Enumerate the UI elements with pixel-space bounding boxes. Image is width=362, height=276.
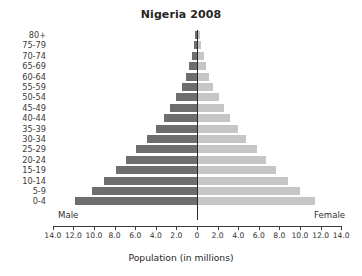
x-axis-tick <box>218 226 219 230</box>
age-group-label: 0-4 <box>0 196 46 206</box>
x-axis-tick <box>53 226 54 230</box>
x-axis-tick-label: 6.0 <box>129 231 141 241</box>
pyramid-row: 15-19 <box>0 165 362 175</box>
bar-male <box>116 166 197 174</box>
x-axis-tick-label: 0 <box>195 231 200 241</box>
bar-female <box>198 104 224 112</box>
age-group-label: 80+ <box>0 30 46 40</box>
x-axis-tick <box>115 226 116 230</box>
chart-title: Nigeria 2008 <box>0 8 362 21</box>
age-group-label: 5-9 <box>0 186 46 196</box>
pyramid-row: 75-79 <box>0 40 362 50</box>
bar-male <box>136 145 197 153</box>
x-axis-tick-label: 4.0 <box>150 231 162 241</box>
bar-male <box>147 135 197 143</box>
x-axis-tick-label: 10.0 <box>86 231 103 241</box>
population-pyramid-chart: Nigeria 2008 0-45-910-1415-1920-2425-293… <box>0 0 362 276</box>
x-axis-tick-label: 12.0 <box>312 231 329 241</box>
bar-female <box>198 145 257 153</box>
x-axis-tick <box>279 226 280 230</box>
bar-female <box>198 135 246 143</box>
x-axis-tick <box>197 226 198 230</box>
bar-male <box>176 93 197 101</box>
pyramid-row: 20-24 <box>0 155 362 165</box>
bar-female <box>198 114 230 122</box>
x-axis-tick <box>341 226 342 230</box>
x-axis-tick-label: 2.0 <box>170 231 182 241</box>
age-group-label: 20-24 <box>0 155 46 165</box>
pyramid-row: 65-69 <box>0 61 362 71</box>
pyramid-row: 70-74 <box>0 51 362 61</box>
pyramid-row: 30-34 <box>0 134 362 144</box>
pyramid-row: 45-49 <box>0 103 362 113</box>
x-axis-tick <box>176 226 177 230</box>
age-group-label: 15-19 <box>0 165 46 175</box>
pyramid-row: 80+ <box>0 30 362 40</box>
x-axis-tick <box>73 226 74 230</box>
age-group-label: 40-44 <box>0 113 46 123</box>
bar-female <box>198 93 219 101</box>
bar-male <box>164 114 197 122</box>
x-axis-tick-label: 6.0 <box>253 231 265 241</box>
male-series-label: Male <box>58 210 78 220</box>
x-axis-tick-label: 10.0 <box>292 231 309 241</box>
bar-male <box>156 125 197 133</box>
x-axis-tick <box>259 226 260 230</box>
x-axis-tick-label: 8.0 <box>273 231 285 241</box>
x-axis-tick-label: 4.0 <box>232 231 244 241</box>
pyramid-row: 55-59 <box>0 82 362 92</box>
bar-male <box>170 104 197 112</box>
x-axis-tick-label: 8.0 <box>109 231 121 241</box>
x-axis-tick-label: 14.0 <box>44 231 61 241</box>
x-axis-tick <box>94 226 95 230</box>
x-axis-title: Population (in millions) <box>0 252 362 263</box>
bar-female <box>198 31 200 39</box>
age-group-label: 55-59 <box>0 82 46 92</box>
age-group-label: 75-79 <box>0 40 46 50</box>
age-group-label: 10-14 <box>0 176 46 186</box>
pyramid-row: 25-29 <box>0 144 362 154</box>
bar-male <box>189 62 197 70</box>
x-axis-tick <box>238 226 239 230</box>
bar-female <box>198 73 209 81</box>
bar-female <box>198 41 201 49</box>
bar-male <box>104 177 197 185</box>
plot-area: 0-45-910-1415-1920-2425-2930-3435-3940-4… <box>0 30 362 220</box>
x-axis-tick <box>321 226 322 230</box>
pyramid-row: 5-9 <box>0 186 362 196</box>
bar-male <box>92 187 197 195</box>
bar-female <box>198 62 206 70</box>
age-group-label: 65-69 <box>0 61 46 71</box>
x-axis-tick <box>300 226 301 230</box>
age-group-label: 30-34 <box>0 134 46 144</box>
age-group-label: 25-29 <box>0 144 46 154</box>
bar-female <box>198 177 288 185</box>
x-axis-tick-label: 2.0 <box>212 231 224 241</box>
x-axis-tick <box>135 226 136 230</box>
pyramid-row: 35-39 <box>0 124 362 134</box>
bar-male <box>186 73 197 81</box>
bar-female <box>198 187 300 195</box>
zero-axis-line <box>197 30 198 220</box>
x-axis-tick-label: 14.0 <box>333 231 350 241</box>
x-axis-tick <box>156 226 157 230</box>
age-group-label: 45-49 <box>0 103 46 113</box>
pyramid-row: 10-14 <box>0 176 362 186</box>
pyramid-row: 60-64 <box>0 72 362 82</box>
age-group-label: 35-39 <box>0 124 46 134</box>
bar-female <box>198 83 213 91</box>
bar-female <box>198 166 276 174</box>
bar-male <box>126 156 197 164</box>
bar-male <box>182 83 197 91</box>
bar-male <box>75 197 197 205</box>
pyramid-row: 40-44 <box>0 113 362 123</box>
bar-female <box>198 156 266 164</box>
bar-female <box>198 197 315 205</box>
x-axis-tick-label: 12.0 <box>65 231 82 241</box>
female-series-label: Female <box>314 210 345 220</box>
age-group-label: 70-74 <box>0 51 46 61</box>
bar-female <box>198 125 238 133</box>
pyramid-row: 50-54 <box>0 92 362 102</box>
age-group-label: 50-54 <box>0 92 46 102</box>
bar-female <box>198 52 204 60</box>
